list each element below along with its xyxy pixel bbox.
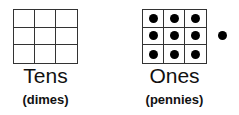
penny-dot-icon: [191, 31, 200, 40]
ones-cell: [164, 10, 185, 28]
ones-cell: [164, 45, 185, 63]
ones-cell: [143, 45, 164, 63]
ones-label: Ones: [137, 65, 212, 87]
penny-dot-icon: [191, 50, 200, 59]
tens-cell: [14, 10, 35, 28]
penny-dot-icon: [149, 14, 158, 23]
tens-cell: [56, 45, 77, 63]
tens-sublabel: (dimes): [8, 92, 83, 107]
penny-dot-icon: [170, 14, 179, 23]
penny-dot-icon: [170, 50, 179, 59]
ones-cell: [185, 10, 206, 28]
tens-cell: [56, 28, 77, 46]
penny-dot-icon: [149, 50, 158, 59]
ones-cell: [143, 10, 164, 28]
penny-dot-icon: [149, 31, 158, 40]
tens-cell: [14, 45, 35, 63]
ones-cell: [185, 45, 206, 63]
tens-cell: [35, 28, 56, 46]
tens-cell: [35, 10, 56, 28]
tens-grid: [13, 9, 78, 64]
tens-cell: [56, 10, 77, 28]
penny-dot-icon: [170, 31, 179, 40]
ones-sublabel: (pennies): [132, 92, 217, 107]
ones-cell: [185, 28, 206, 46]
ones-grid: [142, 9, 207, 64]
ones-cell: [143, 28, 164, 46]
tens-cell: [14, 28, 35, 46]
tens-label: Tens: [13, 65, 78, 87]
ones-cell: [164, 28, 185, 46]
extra-penny-dot-icon: [218, 31, 227, 40]
tens-cell: [35, 45, 56, 63]
penny-dot-icon: [191, 14, 200, 23]
